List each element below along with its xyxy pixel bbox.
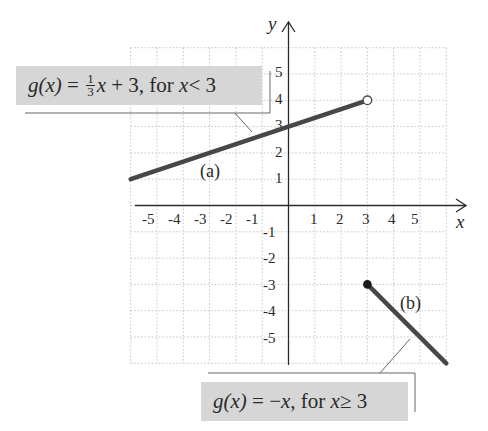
label-a-cond-var: x (179, 73, 188, 98)
y-tick: 5 (275, 64, 283, 80)
x-tick: -4 (168, 211, 181, 227)
y-tick: -4 (263, 303, 276, 319)
label-a-lhs: g(x) (28, 73, 62, 98)
label-a-eq: = (67, 73, 79, 98)
label-a-cond: < 3 (188, 73, 216, 98)
label-b-rest: , for (290, 389, 325, 414)
label-b-cond: ≥ 3 (340, 389, 367, 414)
y-tick: -1 (263, 224, 276, 240)
y-tick: 4 (275, 91, 283, 107)
part-label-b: (b) (400, 293, 421, 314)
label-b-eq: = (252, 389, 264, 414)
label-b-lhs: g(x) (213, 389, 247, 414)
y-axis-label: y (266, 13, 277, 34)
closed-endpoint-icon (363, 280, 372, 289)
x-tick: -1 (246, 211, 259, 227)
chart-canvas: x y -5 -4 -3 -2 -1 1 2 3 4 5 5 4 3 2 1 -… (0, 0, 488, 431)
equation-label-b: g(x) = − x , for x ≥ 3 (201, 382, 408, 421)
label-a-fraction: 1 3 (86, 73, 95, 98)
label-a-rest: + 3, for (111, 73, 174, 98)
equation-label-a: g(x) = 1 3 x + 3, for x < 3 (16, 66, 262, 105)
x-tick: 4 (388, 211, 396, 227)
part-label-a: (a) (200, 161, 220, 182)
leader-lines (25, 71, 415, 412)
open-endpoint-icon (363, 96, 372, 105)
x-tick: -5 (142, 211, 155, 227)
x-tick: 5 (411, 211, 419, 227)
y-tick: -5 (263, 330, 276, 346)
x-tick: 1 (310, 211, 318, 227)
y-tick: 2 (275, 144, 283, 160)
label-b-var: x (281, 389, 290, 414)
series-a-line (131, 100, 368, 179)
x-tick: -3 (194, 211, 207, 227)
y-tick: -3 (263, 277, 276, 293)
label-b-cond-var: x (331, 389, 340, 414)
leader-a-pointer (235, 113, 252, 132)
x-tick: 3 (362, 211, 370, 227)
label-b-minus: − (269, 389, 281, 414)
y-tick: 1 (275, 170, 283, 186)
x-tick: 2 (336, 211, 344, 227)
fraction-denominator: 3 (87, 86, 94, 98)
y-tick: -2 (263, 250, 276, 266)
leader-b-pointer (380, 339, 410, 373)
x-tick: -2 (220, 211, 233, 227)
label-a-var: x (97, 73, 106, 98)
x-axis-label: x (455, 211, 465, 232)
